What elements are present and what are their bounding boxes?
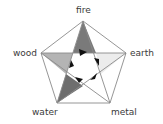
- label-water: water: [32, 108, 58, 117]
- label-earth: earth: [130, 49, 154, 58]
- arrow-icon: [90, 73, 97, 80]
- five-elements-diagram: [0, 0, 163, 124]
- label-fire: fire: [76, 6, 91, 15]
- center-cycle-arrows: [69, 49, 99, 83]
- arrow-icon: [94, 58, 99, 66]
- label-metal: metal: [111, 108, 137, 117]
- label-wood: wood: [13, 49, 37, 58]
